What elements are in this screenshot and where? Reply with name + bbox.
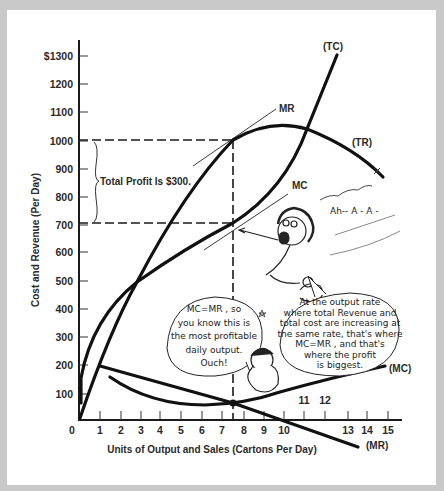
bubble-text-line: is biggest. bbox=[317, 360, 363, 370]
motion-lines-icon bbox=[320, 186, 372, 201]
x-tick-label: 6 bbox=[199, 424, 205, 436]
bubble-text-line: Ouch! bbox=[200, 358, 227, 368]
y-tick-label: $1300 bbox=[44, 50, 73, 62]
x-tick-label: 7 bbox=[219, 424, 225, 436]
x-axis-label: Units of Output and Sales (Cartons Per D… bbox=[107, 444, 316, 455]
x-tick-label: 8 bbox=[241, 424, 247, 436]
x-tick-label: 3 bbox=[138, 424, 144, 436]
x-tick-label: 0 bbox=[69, 424, 75, 436]
y-tick-label: 200 bbox=[55, 359, 73, 371]
y-tick-label: 700 bbox=[55, 219, 73, 231]
x-tick-label: 15 bbox=[382, 424, 394, 436]
x-tick-label: 14 bbox=[361, 424, 373, 436]
bubble-text-line: daily output. bbox=[186, 345, 243, 355]
star-icon bbox=[259, 310, 266, 317]
bubble-text-line: At the output rate bbox=[300, 297, 381, 307]
bubble-text-line: MC=MR , so bbox=[187, 304, 242, 314]
mr-label: (MR) bbox=[366, 440, 388, 451]
y-tick-label: 800 bbox=[55, 191, 73, 203]
bubble-text-line: the most profitable bbox=[171, 331, 258, 341]
y-tick-label: 400 bbox=[55, 303, 73, 315]
bubble-text-line: you know this is bbox=[178, 318, 251, 328]
mc-tangent-label: MC bbox=[292, 180, 308, 191]
bubble-text-line: the same rate, that's where bbox=[278, 329, 403, 339]
scream-text: Ah-- A - A - bbox=[330, 206, 379, 216]
y-tick-label: 900 bbox=[55, 163, 73, 175]
y-ticks: $130012001100100090080070060050040030020… bbox=[44, 50, 88, 400]
x-tick-label: 2 bbox=[118, 424, 124, 436]
y-axis-label: Cost and Revenue (Per Day) bbox=[30, 173, 41, 307]
tc-label: (TC) bbox=[323, 41, 343, 52]
profit-chart: $130012001100100090080070060050040030020… bbox=[0, 0, 444, 491]
bubble-text-line: total cost are increasing at bbox=[280, 318, 401, 328]
profit-label: Total Profit Is $300. bbox=[100, 176, 191, 187]
mc-mr-intersection bbox=[230, 400, 237, 407]
y-tick-label: 100 bbox=[55, 388, 73, 400]
speed-lines-icon bbox=[330, 215, 400, 255]
x-tick-label: 10 bbox=[278, 424, 290, 436]
y-tick-label: 1100 bbox=[50, 106, 73, 118]
x-tick-label: 12 bbox=[319, 394, 331, 406]
cartoon-sitting-girl bbox=[248, 348, 279, 392]
y-tick-label: 500 bbox=[55, 275, 73, 287]
y-tick-label: 1000 bbox=[50, 135, 74, 147]
x-tick-label: 5 bbox=[178, 424, 184, 436]
bubble-text-line: where total Revenue and bbox=[284, 308, 397, 318]
y-tick-label: 600 bbox=[55, 246, 73, 258]
x-tick-label: 9 bbox=[261, 424, 267, 436]
cartoon-falling-person bbox=[239, 208, 323, 302]
x-tick-label: 1 bbox=[97, 424, 103, 436]
bubble-text-line: MC=MR , and that's bbox=[295, 339, 385, 349]
bubble-text-line: where the profit bbox=[304, 350, 377, 360]
tr-label: (TR) bbox=[352, 137, 372, 148]
profit-brace bbox=[94, 142, 99, 222]
mc-tangent-line bbox=[204, 194, 288, 250]
mc-label: (MC) bbox=[389, 363, 411, 374]
x-tick-label: 11 bbox=[298, 394, 309, 406]
mr-tangent-line bbox=[193, 109, 276, 166]
x-tick-label: 13 bbox=[342, 424, 354, 436]
mr-tangent-label: MR bbox=[279, 103, 295, 114]
y-tick-label: 1200 bbox=[50, 78, 74, 90]
x-tick-label: 4 bbox=[157, 424, 163, 436]
y-tick-label: 300 bbox=[55, 331, 73, 343]
